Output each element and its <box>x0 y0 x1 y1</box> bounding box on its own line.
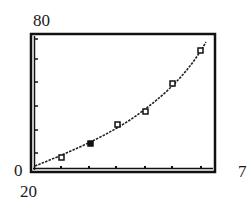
fit-curve <box>35 42 206 166</box>
data-point <box>115 122 120 127</box>
data-point <box>198 48 203 53</box>
data-points <box>59 48 203 160</box>
data-point <box>88 141 93 146</box>
y-axis-ticks <box>35 39 38 153</box>
data-point <box>59 155 64 160</box>
data-point <box>143 109 148 114</box>
plot-frame <box>31 34 215 172</box>
chart-plot <box>0 0 248 204</box>
data-point <box>170 81 175 86</box>
x-axis-ticks <box>60 166 202 168</box>
